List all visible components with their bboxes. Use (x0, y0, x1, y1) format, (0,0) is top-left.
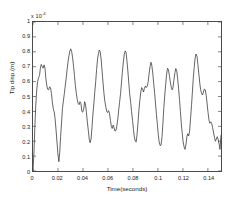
y-tick-label: 0.1 (2, 154, 30, 160)
y-tick-label: 1 (2, 18, 30, 24)
plot-area (32, 21, 222, 172)
y-tick-label: 0.7 (2, 63, 30, 69)
x-axis-tick-labels: 00.020.040.060.080.10.120.14 (32, 175, 222, 185)
chart-figure: x 10-4 00.10.20.30.40.50.60.70.80.91 00.… (0, 0, 243, 199)
y-tick-label: 0.8 (2, 48, 30, 54)
y-tick-label: 0.9 (2, 33, 30, 39)
y-axis-exponent-label: x 10-4 (31, 10, 46, 20)
x-axis-title: Time(seconds) (32, 185, 222, 193)
plot-svg (33, 22, 221, 171)
y-axis-ticks (33, 22, 221, 171)
y-axis-exponent-prefix: x 10 (31, 13, 42, 19)
y-tick-label: 0.6 (2, 78, 30, 84)
x-tick-label: 0.14 (192, 175, 226, 182)
y-axis-title: Tip disp.(m) (8, 28, 16, 128)
data-series-line (33, 49, 221, 171)
y-tick-label: 0.2 (2, 139, 30, 145)
y-tick-label: 0.3 (2, 124, 30, 130)
y-tick-label: 0.5 (2, 94, 30, 100)
y-axis-exponent-power: -4 (42, 11, 46, 16)
y-tick-label: 0.4 (2, 109, 30, 115)
